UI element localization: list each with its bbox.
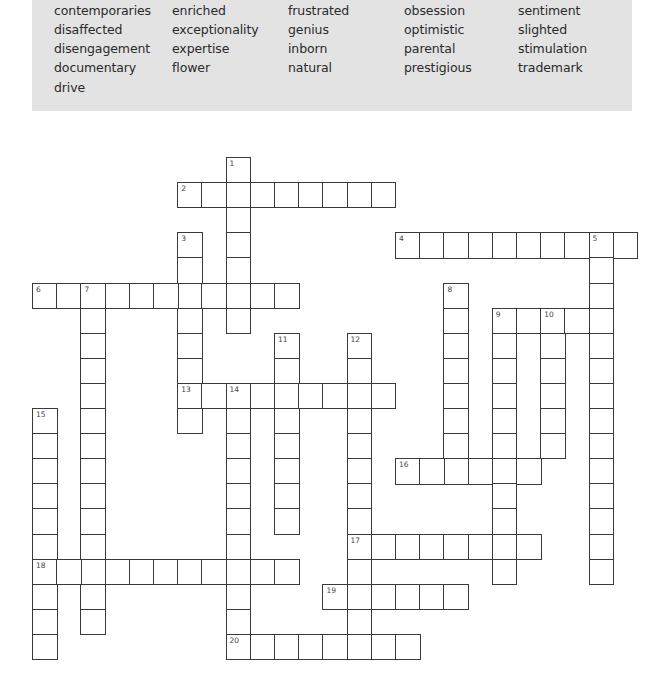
crossword-cell[interactable] [468, 232, 494, 258]
crossword-cell[interactable] [589, 508, 615, 534]
crossword-cell[interactable] [347, 559, 373, 585]
crossword-cell[interactable] [226, 182, 252, 208]
crossword-cell[interactable] [56, 559, 82, 585]
crossword-cell[interactable] [492, 458, 518, 484]
crossword-cell[interactable] [443, 534, 469, 560]
crossword-cell[interactable] [32, 458, 58, 484]
crossword-cell[interactable] [564, 308, 590, 334]
crossword-cell[interactable] [371, 383, 397, 409]
crossword-cell[interactable] [177, 308, 203, 334]
crossword-cell[interactable] [274, 383, 300, 409]
crossword-cell[interactable]: 3 [177, 232, 203, 258]
crossword-cell[interactable] [443, 333, 469, 359]
crossword-cell[interactable] [32, 433, 58, 459]
crossword-cell[interactable] [492, 358, 518, 384]
crossword-cell[interactable]: 19 [322, 584, 348, 610]
crossword-cell[interactable] [153, 283, 179, 309]
crossword-cell[interactable] [492, 559, 518, 585]
crossword-cell[interactable] [540, 433, 566, 459]
crossword-cell[interactable]: 17 [347, 534, 373, 560]
crossword-cell[interactable] [274, 182, 300, 208]
crossword-cell[interactable] [250, 559, 276, 585]
crossword-cell[interactable] [226, 308, 252, 334]
crossword-cell[interactable] [298, 383, 324, 409]
crossword-cell[interactable] [589, 333, 615, 359]
crossword-cell[interactable] [516, 308, 542, 334]
crossword-cell[interactable] [419, 534, 445, 560]
crossword-cell[interactable] [80, 483, 106, 509]
crossword-cell[interactable] [516, 458, 542, 484]
crossword-cell[interactable] [347, 358, 373, 384]
crossword-cell[interactable] [443, 458, 469, 484]
crossword-cell[interactable] [589, 358, 615, 384]
crossword-cell[interactable] [613, 232, 639, 258]
crossword-cell[interactable] [443, 433, 469, 459]
crossword-cell[interactable] [177, 333, 203, 359]
crossword-cell[interactable] [274, 408, 300, 434]
crossword-cell[interactable] [80, 559, 106, 585]
crossword-cell[interactable] [347, 383, 373, 409]
crossword-cell[interactable] [347, 433, 373, 459]
crossword-cell[interactable]: 11 [274, 333, 300, 359]
crossword-cell[interactable] [492, 232, 518, 258]
crossword-cell[interactable] [250, 283, 276, 309]
crossword-cell[interactable] [589, 483, 615, 509]
crossword-cell[interactable] [347, 408, 373, 434]
crossword-cell[interactable]: 20 [226, 634, 252, 660]
crossword-cell[interactable] [32, 634, 58, 660]
crossword-cell[interactable]: 16 [395, 458, 421, 484]
crossword-cell[interactable] [80, 433, 106, 459]
crossword-cell[interactable] [564, 232, 590, 258]
crossword-cell[interactable] [80, 458, 106, 484]
crossword-cell[interactable] [226, 458, 252, 484]
crossword-cell[interactable] [419, 584, 445, 610]
crossword-cell[interactable] [540, 358, 566, 384]
crossword-cell[interactable] [516, 232, 542, 258]
crossword-cell[interactable] [80, 508, 106, 534]
crossword-cell[interactable] [347, 508, 373, 534]
crossword-cell[interactable] [129, 283, 155, 309]
crossword-cell[interactable] [274, 508, 300, 534]
crossword-cell[interactable] [443, 584, 469, 610]
crossword-cell[interactable] [589, 559, 615, 585]
crossword-cell[interactable] [347, 458, 373, 484]
crossword-cell[interactable] [468, 534, 494, 560]
crossword-cell[interactable] [80, 333, 106, 359]
crossword-cell[interactable] [443, 308, 469, 334]
crossword-cell[interactable] [80, 308, 106, 334]
crossword-cell[interactable] [540, 408, 566, 434]
crossword-cell[interactable] [177, 559, 203, 585]
crossword-cell[interactable] [589, 308, 615, 334]
crossword-cell[interactable] [226, 257, 252, 283]
crossword-cell[interactable] [492, 333, 518, 359]
crossword-cell[interactable] [492, 483, 518, 509]
crossword-cell[interactable] [347, 182, 373, 208]
crossword-cell[interactable] [226, 609, 252, 635]
crossword-cell[interactable]: 12 [347, 333, 373, 359]
crossword-cell[interactable] [589, 534, 615, 560]
crossword-cell[interactable] [589, 283, 615, 309]
crossword-cell[interactable] [443, 232, 469, 258]
crossword-cell[interactable] [322, 182, 348, 208]
crossword-cell[interactable] [419, 458, 445, 484]
crossword-cell[interactable] [226, 207, 252, 233]
crossword-cell[interactable] [395, 634, 421, 660]
crossword-cell[interactable] [80, 584, 106, 610]
crossword-cell[interactable] [274, 634, 300, 660]
crossword-cell[interactable] [250, 383, 276, 409]
crossword-cell[interactable] [395, 584, 421, 610]
crossword-cell[interactable] [540, 333, 566, 359]
crossword-cell[interactable] [492, 433, 518, 459]
crossword-cell[interactable] [226, 534, 252, 560]
crossword-cell[interactable] [492, 508, 518, 534]
crossword-cell[interactable] [274, 559, 300, 585]
crossword-cell[interactable] [80, 534, 106, 560]
crossword-cell[interactable] [226, 508, 252, 534]
crossword-cell[interactable] [226, 584, 252, 610]
crossword-cell[interactable]: 14 [226, 383, 252, 409]
crossword-cell[interactable] [395, 534, 421, 560]
crossword-cell[interactable] [516, 534, 542, 560]
crossword-cell[interactable]: 9 [492, 308, 518, 334]
crossword-cell[interactable] [129, 559, 155, 585]
crossword-cell[interactable] [177, 408, 203, 434]
